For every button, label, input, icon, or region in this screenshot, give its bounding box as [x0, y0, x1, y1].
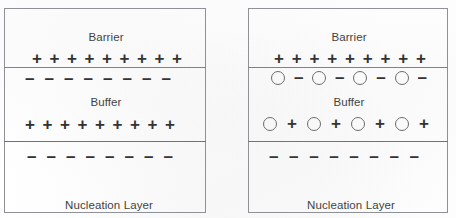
positive-charge-icon: +	[416, 51, 426, 67]
negative-charge-icon: –	[105, 149, 114, 165]
positive-charge-icon: +	[137, 51, 147, 67]
positive-charge-icon: +	[25, 117, 35, 133]
vacancy-circle-icon	[263, 117, 277, 131]
charge-row-barrier-interface-positive: +++++++++	[274, 51, 426, 67]
positive-charge-icon: +	[85, 51, 95, 67]
vacancy-circle-icon	[395, 71, 409, 85]
negative-charge-icon: –	[162, 71, 171, 87]
positive-charge-icon: +	[375, 116, 385, 132]
charge-row-barrier-interface-positive: +++++++++	[32, 51, 182, 67]
positive-charge-icon: +	[95, 117, 105, 133]
negative-charge-icon: –	[329, 149, 338, 165]
positive-charge-icon: +	[398, 51, 408, 67]
negative-charge-icon: –	[309, 149, 318, 165]
positive-charge-icon: +	[419, 116, 429, 132]
charge-row-nucleation-top-negative: ––––––––	[27, 149, 173, 165]
positive-charge-icon: +	[155, 51, 165, 67]
negative-charge-icon: –	[418, 70, 427, 86]
negative-charge-icon: –	[45, 71, 54, 87]
negative-charge-icon: –	[66, 149, 75, 165]
charge-row-buffer-bottom-vacancy-positive: ++++	[263, 116, 429, 132]
positive-charge-icon: +	[130, 117, 140, 133]
negative-charge-icon: –	[84, 71, 93, 87]
positive-charge-icon: +	[287, 116, 297, 132]
positive-charge-icon: +	[50, 51, 60, 67]
negative-charge-icon: –	[409, 149, 418, 165]
layer-label-buffer: Buffer	[5, 96, 207, 110]
negative-charge-icon: –	[349, 149, 358, 165]
panel-without-vacancies: Barrier Buffer Nucleation Layer Substrat…	[4, 8, 206, 213]
negative-charge-icon: –	[27, 149, 36, 165]
negative-charge-icon: –	[335, 70, 344, 86]
positive-charge-icon: +	[102, 51, 112, 67]
positive-charge-icon: +	[331, 116, 341, 132]
negative-charge-icon: –	[25, 71, 34, 87]
negative-charge-icon: –	[376, 70, 385, 86]
layer-label-barrier: Barrier	[249, 31, 449, 45]
charge-row-buffer-bottom-positive: +++++++++	[25, 117, 175, 133]
negative-charge-icon: –	[164, 149, 173, 165]
layer-label-nucleation-substrate: Nucleation Layer Substrate	[307, 172, 447, 218]
vacancy-circle-icon	[395, 117, 409, 131]
vacancy-circle-icon	[353, 71, 367, 85]
layer-label-nucleation-substrate: Nucleation Layer Substrate	[65, 172, 205, 218]
positive-charge-icon: +	[78, 117, 88, 133]
vacancy-circle-icon	[271, 71, 285, 85]
negative-charge-icon: –	[369, 149, 378, 165]
charge-row-buffer-interface-negative: ––––––––	[25, 71, 171, 87]
negative-charge-icon: –	[294, 70, 303, 86]
charge-row-buffer-interface-vacancy-negative: ––––	[271, 70, 427, 86]
panel-with-vacancies: Barrier Buffer Nucleation Layer Substrat…	[248, 8, 448, 213]
negative-charge-icon: –	[269, 149, 278, 165]
vacancy-circle-icon	[307, 117, 321, 131]
negative-charge-icon: –	[64, 71, 73, 87]
layer-label-buffer: Buffer	[249, 96, 449, 110]
positive-charge-icon: +	[120, 51, 130, 67]
positive-charge-icon: +	[148, 117, 158, 133]
nucleation-layer-text: Nucleation Layer	[65, 199, 205, 213]
diagram-canvas: Barrier Buffer Nucleation Layer Substrat…	[0, 0, 456, 218]
positive-charge-icon: +	[67, 51, 77, 67]
positive-charge-icon: +	[292, 51, 302, 67]
negative-charge-icon: –	[86, 149, 95, 165]
positive-charge-icon: +	[363, 51, 373, 67]
positive-charge-icon: +	[172, 51, 182, 67]
negative-charge-icon: –	[103, 71, 112, 87]
divider-buffer-nucleation	[4, 141, 206, 142]
positive-charge-icon: +	[165, 117, 175, 133]
charge-row-nucleation-top-negative: ––––––––	[269, 149, 419, 165]
layer-label-barrier: Barrier	[5, 31, 207, 45]
positive-charge-icon: +	[345, 51, 355, 67]
positive-charge-icon: +	[113, 117, 123, 133]
vacancy-circle-icon	[351, 117, 365, 131]
vacancy-circle-icon	[312, 71, 326, 85]
negative-charge-icon: –	[47, 149, 56, 165]
nucleation-layer-text: Nucleation Layer	[307, 199, 447, 213]
divider-buffer-nucleation	[248, 141, 448, 142]
negative-charge-icon: –	[123, 71, 132, 87]
positive-charge-icon: +	[381, 51, 391, 67]
positive-charge-icon: +	[310, 51, 320, 67]
negative-charge-icon: –	[142, 71, 151, 87]
negative-charge-icon: –	[289, 149, 298, 165]
negative-charge-icon: –	[125, 149, 134, 165]
positive-charge-icon: +	[32, 51, 42, 67]
negative-charge-icon: –	[144, 149, 153, 165]
negative-charge-icon: –	[389, 149, 398, 165]
positive-charge-icon: +	[43, 117, 53, 133]
positive-charge-icon: +	[274, 51, 284, 67]
positive-charge-icon: +	[60, 117, 70, 133]
positive-charge-icon: +	[327, 51, 337, 67]
